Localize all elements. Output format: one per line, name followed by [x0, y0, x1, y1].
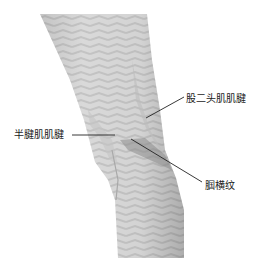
label-semitendinosus-tendon: 半腱肌肌腱 — [14, 129, 64, 141]
label-biceps-femoris-tendon: 股二头肌肌腱 — [186, 93, 246, 105]
label-popliteal-crease: 腘横纹 — [205, 180, 235, 192]
